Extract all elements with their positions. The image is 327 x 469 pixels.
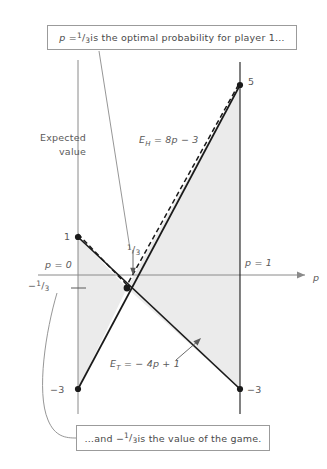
fraction-denominator: 3 [45,284,50,293]
point-et-left [75,234,81,240]
point-et-right [237,386,243,392]
x-tick-label-one-third: 1/3 [127,243,140,257]
point-label-neg-three-left: −3 [50,384,64,395]
point-intersection [124,285,131,292]
fraction-denominator: 3 [133,436,138,445]
x-axis-name: p [313,272,319,283]
figure-root: p = 1/3 is the optimal probability for p… [0,0,327,469]
x-tick-label-p-zero: p = 0 [45,259,72,270]
x-tick-label-p-one: p = 1 [245,257,272,268]
point-label-five: 5 [248,76,254,87]
callout-top-suffix: is the optimal probability for player 1… [90,32,284,43]
callout-bottom-suffix: is the value of the game. [137,433,261,444]
callout-top-fraction: 1/3 [77,31,90,45]
y-axis-label-line1: Expected [40,132,86,143]
y-axis-label: Expectedvalue [14,131,86,159]
equation-eh-label: EH = 8p − 3 [139,134,199,148]
leader-line-top [99,51,136,275]
equation-et-body: = − 4p + 1 [121,358,180,369]
point-label-one: 1 [64,231,70,242]
fraction-denominator: 3 [135,248,140,257]
callout-bottom-fraction: 1/3 [124,431,137,445]
minus-sign: − [28,280,36,291]
equation-et-label: ET = − 4p + 1 [110,358,180,372]
one-third-fraction: 1/3 [127,243,140,257]
y-axis-label-line2: value [59,146,86,157]
callout-top-prefix: p = [59,32,77,43]
point-label-neg-three-right: −3 [247,384,261,395]
equation-eh-body: = 8p − 3 [151,134,199,145]
y-tick-label-neg-one-third: −1/3 [28,279,50,293]
point-eh-left [75,386,81,392]
callout-bottom-prefix: …and − [85,433,125,444]
callout-top: p = 1/3 is the optimal probability for p… [47,25,297,50]
neg-one-third-fraction: 1/3 [36,279,49,293]
callout-bottom: …and −1/3 is the value of the game. [76,425,270,451]
leader-line-bottom [43,293,76,438]
fraction-denominator: 3 [85,35,90,44]
plot-canvas [0,0,327,469]
point-eh-right [237,82,243,88]
